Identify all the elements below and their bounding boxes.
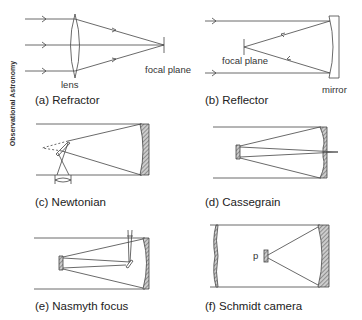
lens-label: lens xyxy=(61,79,78,90)
focal-plane-label-a: focal plane xyxy=(145,64,191,75)
refractor-diagram xyxy=(25,14,164,78)
mirror-label: mirror xyxy=(322,84,347,95)
caption-refractor: (a) Refractor xyxy=(35,94,100,106)
schmidt-diagram xyxy=(210,225,329,287)
caption-nasmyth: (e) Nasmyth focus xyxy=(35,300,128,312)
telescope-diagrams xyxy=(0,0,362,320)
p-label: p xyxy=(253,250,258,261)
caption-newtonian: (c) Newtonian xyxy=(35,196,106,208)
newtonian-diagram xyxy=(36,124,149,184)
caption-cassegrain: (d) Cassegrain xyxy=(205,196,280,208)
focal-plane-label-b: focal plane xyxy=(222,55,268,66)
nasmyth-diagram xyxy=(34,230,149,289)
reflector-diagram xyxy=(205,16,339,78)
cassegrain-diagram xyxy=(213,127,338,178)
caption-reflector: (b) Reflector xyxy=(205,94,268,106)
caption-schmidt: (f) Schmidt camera xyxy=(205,300,302,312)
